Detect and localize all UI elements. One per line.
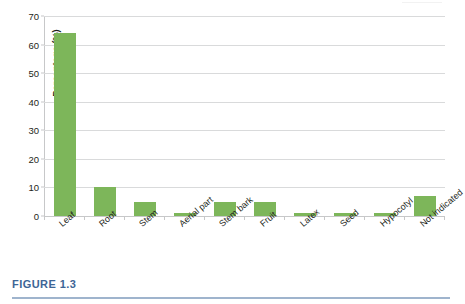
- bars-group: [45, 16, 445, 216]
- caption-rule: [12, 297, 450, 299]
- bar-slot: [205, 16, 245, 216]
- y-tick-label: 10: [28, 182, 39, 193]
- bar: [54, 33, 76, 216]
- y-tick-mark: [41, 158, 44, 159]
- bar-slot: [45, 16, 85, 216]
- bar-slot: [125, 16, 165, 216]
- bar-slot: [245, 16, 285, 216]
- top-hairline-decoration: [402, 2, 442, 3]
- bar-chart: Percentage (%) 010203040506070 LeafRootS…: [0, 0, 454, 272]
- y-tick-mark: [41, 101, 44, 102]
- bar-slot: [85, 16, 125, 216]
- bar-slot: [165, 16, 205, 216]
- y-tick-label: 30: [28, 125, 39, 136]
- y-tick-label: 40: [28, 96, 39, 107]
- plot-area: 010203040506070: [44, 16, 445, 216]
- y-tick-mark: [41, 44, 44, 45]
- y-tick-label: 20: [28, 153, 39, 164]
- x-axis-origin-tick: [44, 216, 45, 220]
- bar-slot: [365, 16, 405, 216]
- x-axis-category-labels: LeafRootStemAerial partStem barkFruitLat…: [45, 221, 446, 271]
- bar-slot: [405, 16, 445, 216]
- caption-block: FIGURE 1.3: [0, 276, 454, 304]
- y-tick-label: 0: [34, 211, 39, 222]
- y-tick-mark: [41, 16, 44, 17]
- bar-slot: [285, 16, 325, 216]
- y-tick-mark: [41, 130, 44, 131]
- y-tick-mark: [41, 187, 44, 188]
- y-tick-label: 50: [28, 68, 39, 79]
- bar-slot: [325, 16, 365, 216]
- y-tick-label: 60: [28, 39, 39, 50]
- figure-caption: FIGURE 1.3: [12, 278, 76, 290]
- y-tick-label: 70: [28, 11, 39, 22]
- y-tick-mark: [41, 73, 44, 74]
